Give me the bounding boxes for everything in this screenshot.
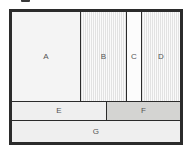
region-c[interactable]: C (126, 11, 142, 102)
region-a-label: A (43, 53, 49, 61)
clipped-top-artifact (21, 0, 30, 2)
region-a[interactable]: A (11, 11, 81, 102)
diagram-frame: A B C D E F G (9, 9, 183, 145)
packing-diagram: A B C D E F G (0, 0, 193, 155)
region-d-label: D (158, 53, 164, 61)
region-b-label: B (101, 53, 107, 61)
region-b[interactable]: B (80, 11, 127, 102)
region-e-label: E (56, 107, 62, 115)
region-e[interactable]: E (11, 101, 107, 121)
region-f[interactable]: F (106, 101, 181, 121)
region-c-label: C (131, 53, 137, 61)
region-f-label: F (141, 107, 146, 115)
region-d[interactable]: D (141, 11, 181, 102)
region-g[interactable]: G (11, 120, 181, 143)
region-g-label: G (93, 128, 100, 136)
